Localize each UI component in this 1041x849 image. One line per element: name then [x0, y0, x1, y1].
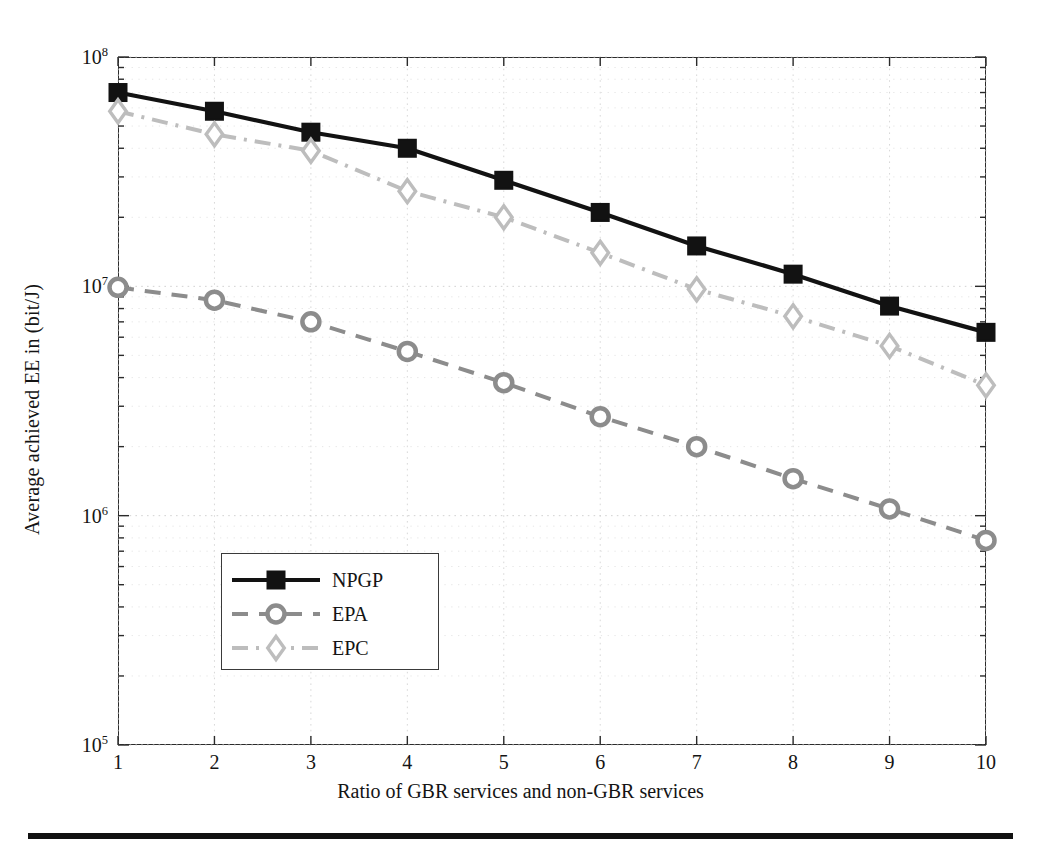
circle-marker	[302, 313, 319, 330]
x-tick-label: 4	[402, 751, 412, 774]
legend-label: EPC	[332, 638, 369, 658]
square-marker	[495, 172, 512, 189]
square-marker	[688, 237, 705, 254]
x-tick-label: 8	[788, 751, 798, 774]
legend-item-epa[interactable]: EPA	[222, 597, 438, 631]
legend-label: EPA	[332, 604, 368, 624]
diamond-marker	[110, 100, 127, 123]
circle-marker	[268, 606, 285, 623]
y-tick-label: 106	[82, 504, 118, 528]
square-marker	[206, 103, 223, 120]
legend-label: NPGP	[332, 570, 383, 590]
series-npgp	[110, 84, 995, 341]
figure-root: Average achieved EE in (bit/J) 105106107…	[0, 0, 1041, 849]
legend-sample-square-icon	[222, 565, 330, 595]
x-tick-label: 2	[209, 751, 219, 774]
y-tick-label: 108	[82, 45, 118, 69]
circle-marker	[688, 438, 705, 455]
series-layer	[110, 84, 995, 549]
diamond-marker	[495, 206, 512, 229]
legend-sample-circle-icon	[222, 599, 330, 629]
legend-sample-diamond-icon	[222, 633, 330, 663]
diamond-marker	[688, 278, 705, 301]
circle-marker	[592, 408, 609, 425]
x-axis-title: Ratio of GBR services and non-GBR servic…	[0, 780, 1041, 803]
diamond-marker	[592, 241, 609, 264]
x-tick-label: 9	[885, 751, 895, 774]
diamond-marker	[268, 637, 285, 660]
x-tick-label: 3	[306, 751, 316, 774]
x-tick-label: 1	[113, 751, 123, 774]
plot-area: 105106107108 12345678910 NPGPEPAEPC	[118, 57, 986, 745]
series-epc	[110, 100, 995, 397]
square-marker	[881, 298, 898, 315]
circle-marker	[785, 470, 802, 487]
x-tick-label: 5	[499, 751, 509, 774]
circle-marker	[881, 500, 898, 517]
square-marker	[592, 204, 609, 221]
square-marker	[978, 324, 995, 341]
footer-divider	[28, 833, 1013, 839]
legend-item-npgp[interactable]: NPGP	[222, 563, 438, 597]
diamond-marker	[399, 180, 416, 203]
circle-marker	[206, 292, 223, 309]
x-tick-label: 10	[976, 751, 996, 774]
y-tick-label: 107	[82, 275, 118, 299]
square-marker	[399, 140, 416, 157]
circle-marker	[978, 532, 995, 549]
series-epa	[110, 279, 995, 549]
x-tick-label: 6	[595, 751, 605, 774]
legend-box[interactable]: NPGPEPAEPC	[221, 553, 439, 670]
circle-marker	[495, 374, 512, 391]
x-tick-label: 7	[692, 751, 702, 774]
square-marker	[268, 572, 285, 589]
legend-item-epc[interactable]: EPC	[222, 631, 438, 665]
diamond-marker	[303, 139, 320, 162]
y-axis-title: Average achieved EE in (bit/J)	[21, 260, 44, 560]
circle-marker	[399, 343, 416, 360]
diamond-marker	[881, 334, 898, 357]
square-marker	[785, 266, 802, 283]
